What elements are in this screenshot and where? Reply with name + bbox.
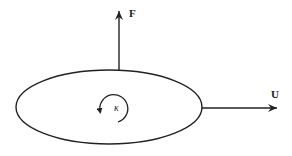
- body-ellipse: [16, 70, 202, 144]
- rotation-label: κ: [114, 102, 119, 113]
- velocity-label: U: [271, 88, 279, 100]
- diagram-canvas: F U κ: [0, 0, 292, 156]
- force-label: F: [129, 7, 136, 19]
